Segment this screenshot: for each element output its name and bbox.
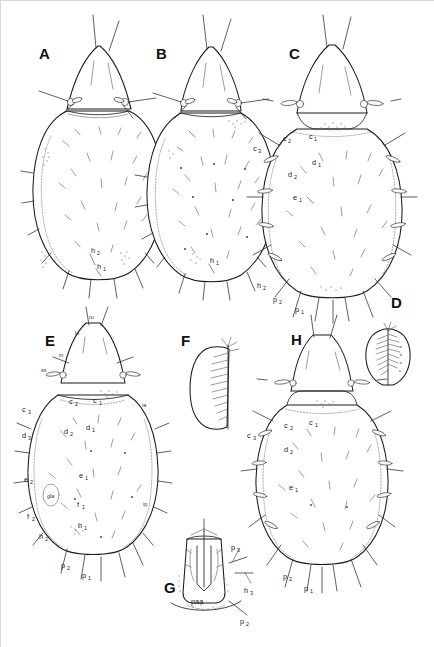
panel-letter-C: C — [289, 45, 300, 62]
label-p1-E: p — [82, 571, 86, 580]
label-d2-C: d — [288, 170, 292, 179]
label-h2-C: h — [257, 281, 261, 290]
bothridium-right-C — [360, 100, 367, 107]
label-p2-C: p — [273, 295, 277, 304]
label-p2-E: p — [61, 561, 65, 570]
label-e1-E: e — [79, 471, 83, 480]
panel-letter-G: G — [164, 579, 176, 596]
label-p3-G: p — [231, 543, 235, 552]
label-c2-sub-E: 2 — [75, 401, 78, 407]
label-e2-sub-E: 2 — [30, 479, 33, 485]
label-c2-sub-C: 2 — [288, 138, 291, 144]
label-p1-sub-E: 1 — [88, 575, 91, 581]
panel-letter-D: D — [391, 294, 402, 311]
seta-body-F — [190, 347, 229, 430]
label-d2-H: d — [284, 445, 288, 454]
bothridium-right-E — [120, 372, 126, 378]
label-c1-E: c — [93, 396, 97, 405]
idiosoma-E — [28, 395, 158, 555]
label-c3-sub-C: 3 — [258, 148, 261, 154]
label-gla-E: gla — [47, 493, 55, 499]
label-c2-C: c — [283, 134, 287, 143]
label-d2-sub-C: 2 — [294, 174, 297, 180]
label-paa-G: paa — [191, 597, 204, 606]
label-p2-sub-H: 2 — [289, 576, 292, 582]
label-c3-C: c — [253, 144, 257, 153]
bothridium-left-E — [60, 372, 66, 378]
idiosoma-C — [262, 129, 402, 298]
label-p2-H: p — [283, 572, 287, 581]
bothridium-left-H — [290, 380, 296, 386]
label-c1-sub-E: 1 — [99, 400, 102, 406]
label-c3-sub-H: 3 — [253, 435, 256, 441]
label-d2-sub-H: 2 — [290, 449, 293, 455]
panel-letter-A: A — [39, 45, 50, 62]
label-h2-sub-C: 2 — [263, 285, 266, 291]
label-ip-E: ip — [143, 501, 147, 507]
label-d2-E: d — [64, 427, 68, 436]
label-e1-sub-H: 1 — [295, 487, 298, 493]
label-p2-sub-C: 2 — [279, 299, 282, 305]
label-c1-sub-C: 1 — [314, 136, 317, 142]
label-h1-B: h — [210, 256, 214, 265]
label-c3-H: c — [247, 431, 251, 440]
label-p2-sub-G: 2 — [246, 621, 249, 627]
label-e1-sub-C: 1 — [299, 197, 302, 203]
label-p1-C: p — [295, 305, 299, 314]
label-h1-sub-E: 1 — [84, 525, 87, 531]
label-c1-sub-H: 1 — [315, 422, 318, 428]
label-d1-C: d — [312, 158, 316, 167]
bothridium-right-H — [348, 380, 354, 386]
label-p1-H: p — [304, 584, 308, 593]
panel-letter-H: H — [291, 331, 302, 348]
label-h1-E: h — [78, 521, 82, 530]
label-d1-sub-E: 1 — [92, 427, 95, 433]
idiosoma-H — [256, 405, 388, 565]
label-h3-sub-G: 3 — [250, 590, 253, 596]
label-p2-sub-E: 2 — [67, 565, 70, 571]
label-p3-sub-G: 3 — [237, 547, 240, 553]
panel-letter-F: F — [181, 332, 190, 349]
label-d2-sub-E: 2 — [70, 431, 73, 437]
panel-letter-E: E — [45, 332, 55, 349]
label-e1-C: e — [293, 193, 297, 202]
label-h2-A: h — [91, 246, 95, 255]
label-c3-sub-E: 3 — [28, 409, 31, 415]
label-d3-E: d — [22, 431, 26, 440]
label-d1-sub-C: 1 — [318, 162, 321, 168]
label-p2-G: p — [240, 617, 244, 626]
panel-letter-B: B — [156, 45, 167, 62]
label-d1-E: d — [86, 423, 90, 432]
label-h1-sub-B: 1 — [216, 260, 219, 266]
label-d3-sub-E: 3 — [28, 435, 31, 441]
plate-canvas: A — [1, 1, 434, 647]
label-h2-sub-E: 2 — [45, 536, 48, 542]
label-c2-E: c — [69, 397, 73, 406]
label-ss-E: ss — [41, 367, 47, 373]
label-p1-sub-H: 1 — [310, 588, 313, 594]
label-h1-A: h — [97, 262, 101, 271]
label-e1-sub-E: 1 — [85, 475, 88, 481]
label-p1-sub-C: 1 — [301, 309, 304, 315]
label-c1-C: c — [309, 132, 313, 141]
label-f2-sub-E: 2 — [32, 516, 35, 522]
illustration-plate: A — [0, 0, 434, 647]
label-c2-H: c — [284, 421, 288, 430]
label-h1-sub-A: 1 — [103, 266, 106, 272]
label-c1-H: c — [309, 418, 313, 427]
label-c2-sub-H: 2 — [290, 425, 293, 431]
label-h3-G: h — [244, 586, 248, 595]
label-c3-E: c — [22, 405, 26, 414]
label-e2-E: e — [24, 475, 28, 484]
label-e1-H: e — [289, 483, 293, 492]
label-ro-E: ro — [89, 314, 94, 320]
label-le-E: le — [75, 330, 79, 336]
label-h2-sub-A: 2 — [97, 250, 100, 256]
label-in-E: in — [59, 352, 63, 358]
label-h2-E: h — [39, 532, 43, 541]
bothridium-left-C — [296, 100, 303, 107]
label-f1-sub-E: 1 — [82, 504, 85, 510]
